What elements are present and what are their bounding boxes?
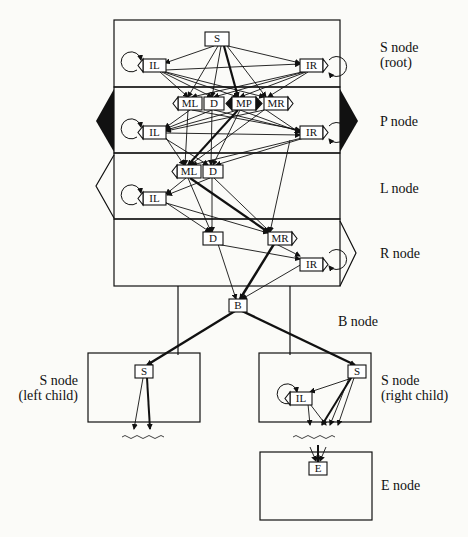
state-label-il-l: IL: [143, 192, 166, 205]
state-label-d-l: D: [203, 165, 223, 178]
state-label-ir-p: IR: [300, 126, 323, 139]
label-s-root-line1: S node: [380, 40, 419, 55]
label-l-node: L node: [380, 181, 419, 196]
p-node-box: [114, 87, 340, 153]
state-label-il-p: IL: [143, 126, 166, 139]
label-s-left: S node (left child): [0, 373, 78, 403]
label-s-root-line2: (root): [380, 55, 419, 70]
p-node-right-marker-icon: [340, 89, 358, 152]
state-label-mr-p: MR: [264, 97, 288, 110]
state-label-il-right: IL: [290, 392, 312, 405]
label-s-left-line1: S node: [0, 373, 78, 388]
s-left-node-box: [88, 353, 200, 422]
p-node-left-marker-icon: [96, 89, 114, 152]
state-label-mr-r: MR: [268, 232, 292, 245]
diagram-canvas: [0, 0, 468, 537]
label-s-left-line2: (left child): [0, 388, 78, 403]
state-label-d-r: D: [203, 232, 223, 245]
label-e-node: E node: [381, 478, 420, 493]
node-boxes: [88, 20, 372, 520]
state-label-b: B: [229, 299, 247, 312]
continuation-squiggles: [122, 436, 335, 439]
label-r-node: R node: [380, 246, 420, 261]
label-s-right: S node (right child): [381, 373, 448, 403]
r-node-box: [114, 219, 340, 286]
state-label-ml-p: ML: [178, 97, 202, 110]
label-s-right-line1: S node: [381, 373, 448, 388]
state-label-s-root: S: [205, 32, 229, 45]
state-label-ml-l: ML: [177, 165, 201, 178]
r-node-right-marker-icon: [340, 221, 356, 286]
l-node-left-marker-icon: [96, 155, 114, 218]
state-label-ir-r: IR: [300, 258, 323, 271]
state-label-mp-p: MP: [232, 97, 256, 110]
label-s-root: S node (root): [380, 40, 419, 70]
state-label-ir-root: IR: [300, 59, 323, 72]
state-label-s-right: S: [348, 365, 366, 378]
label-s-right-line2: (right child): [381, 388, 448, 403]
label-b-node: B node: [338, 314, 378, 329]
state-label-s-left: S: [135, 365, 153, 378]
state-label-e: E: [309, 462, 327, 475]
label-p-node: P node: [380, 114, 418, 129]
state-label-il-root: IL: [143, 59, 166, 72]
state-label-d-p: D: [204, 97, 224, 110]
l-node-box: [114, 153, 340, 219]
